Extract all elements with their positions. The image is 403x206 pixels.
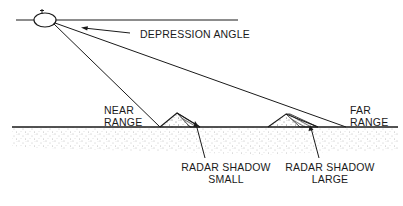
- near-range-label: NEAR RANGE: [104, 104, 142, 128]
- radar-shadow-small-label: RADAR SHADOW SMALL: [178, 161, 274, 185]
- depression-angle-label: DEPRESSION ANGLE: [140, 28, 250, 40]
- aircraft-ellipse-icon: [16, 9, 238, 27]
- depression-ray: [55, 22, 238, 23]
- terrain-ground: [12, 113, 398, 155]
- near-range-label-line1: NEAR: [104, 104, 142, 116]
- radar-shadow-large-line2: LARGE: [282, 173, 378, 185]
- far-range-label: FAR RANGE: [350, 104, 388, 128]
- depression-angle-arrow-icon: [81, 26, 130, 33]
- radar-shadow-small-line2: SMALL: [178, 173, 274, 185]
- near-range-label-line2: RANGE: [104, 116, 142, 128]
- far-range-label-line2: RANGE: [350, 116, 388, 128]
- far-range-label-line1: FAR: [350, 104, 388, 116]
- radar-shadow-large-label: RADAR SHADOW LARGE: [282, 161, 378, 185]
- radar-shadow-large-line1: RADAR SHADOW: [282, 161, 378, 173]
- radar-shadow-small-line1: RADAR SHADOW: [178, 161, 274, 173]
- shadow-small-arrow-icon: [194, 121, 199, 127]
